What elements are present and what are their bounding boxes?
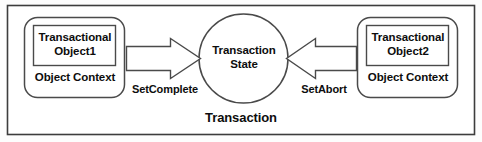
transactional-object-2-context-label: Object Context <box>356 71 460 85</box>
transaction-container-label: Transaction <box>0 110 482 125</box>
transactional-object-1-title: Transactional Object1 <box>27 31 123 58</box>
transactional-object-1-context-label: Object Context <box>23 71 127 85</box>
transaction-diagram: Transactional Object1 Object Context Tra… <box>0 0 482 142</box>
transaction-state-label: Transaction State <box>198 44 290 71</box>
set-complete-arrow-label: SetComplete <box>126 83 204 96</box>
set-abort-arrow-label: SetAbort <box>295 83 353 96</box>
transactional-object-2-title: Transactional Object2 <box>360 31 456 58</box>
